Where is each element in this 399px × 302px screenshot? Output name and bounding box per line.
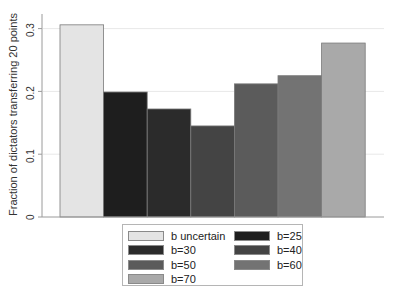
legend-label: b=70 — [171, 273, 196, 285]
y-tick-label: 0.3 — [25, 23, 36, 37]
legend: b uncertain b=25 b=30 b=40 b=50 b=60 b=7… — [122, 224, 303, 286]
legend-item-b40: b=40 — [234, 244, 302, 255]
legend-label: b uncertain — [171, 230, 225, 242]
bar-b-25 — [104, 92, 148, 217]
legend-item-b25: b=25 — [234, 230, 302, 241]
bar-b-40 — [191, 126, 235, 217]
legend-swatch — [128, 245, 164, 255]
legend-item-b-uncertain: b uncertain — [128, 230, 225, 241]
legend-swatch — [234, 260, 270, 270]
y-tick-label: 0 — [25, 214, 36, 220]
legend-label: b=30 — [171, 244, 196, 256]
legend-label: b=25 — [277, 230, 302, 242]
legend-item-b60: b=60 — [234, 259, 302, 270]
bar-b-50 — [234, 84, 278, 217]
bar-b-uncertain — [60, 25, 104, 217]
y-axis-label: Fraction of dictators transferring 20 po… — [7, 16, 19, 216]
bar-b-70 — [322, 43, 366, 217]
y-ticks — [38, 29, 42, 217]
legend-swatch — [234, 245, 270, 255]
legend-item-b70: b=70 — [128, 273, 196, 284]
bars — [60, 25, 365, 217]
y-tick-label: 0.1 — [25, 149, 36, 163]
legend-swatch — [128, 274, 164, 284]
legend-swatch — [128, 231, 164, 241]
legend-item-b50: b=50 — [128, 259, 196, 270]
legend-label: b=60 — [277, 259, 302, 271]
legend-item-b30: b=30 — [128, 244, 196, 255]
legend-label: b=50 — [171, 259, 196, 271]
bar-b-30 — [147, 109, 191, 217]
legend-swatch — [234, 231, 270, 241]
bar-b-60 — [278, 76, 322, 217]
legend-swatch — [128, 260, 164, 270]
legend-label: b=40 — [277, 244, 302, 256]
y-tick-label: 0.2 — [25, 86, 36, 100]
